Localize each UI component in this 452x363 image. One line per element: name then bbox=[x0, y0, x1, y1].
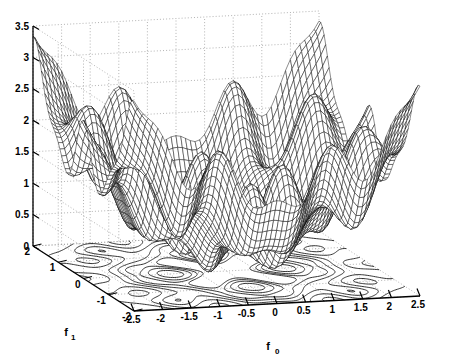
z-tick-label: 3.5 bbox=[15, 21, 29, 32]
svg-text:1: 1 bbox=[71, 333, 76, 342]
z-tick-label: 1.5 bbox=[15, 146, 29, 157]
y-tick-label: -2 bbox=[122, 311, 131, 322]
z-tick-label: 2.5 bbox=[15, 83, 29, 94]
surface-plot-figure: -2.5-2-1.5-1-0.500.511.522.5 210-1-2 00.… bbox=[0, 0, 452, 363]
x-tick-label: 1.5 bbox=[354, 302, 368, 313]
y-axis-title: f 1 bbox=[64, 326, 76, 342]
x-axis-tick-labels: -2.5-2-1.5-1-0.500.511.522.5 bbox=[123, 299, 425, 325]
svg-text:f: f bbox=[266, 340, 270, 352]
x-tick-label: -1 bbox=[213, 310, 222, 321]
z-tick-label: 2 bbox=[23, 115, 29, 126]
y-axis-tick-labels: 210-1-2 bbox=[24, 246, 131, 322]
x-tick-label: 2 bbox=[387, 301, 393, 312]
x-tick-label: -0.5 bbox=[238, 308, 256, 319]
plot-labels-layer: -2.5-2-1.5-1-0.500.511.522.5 210-1-2 00.… bbox=[0, 0, 452, 363]
svg-text:0: 0 bbox=[275, 347, 280, 356]
y-tick-label: -1 bbox=[97, 295, 106, 306]
x-axis-title: f 0 bbox=[266, 340, 280, 356]
x-tick-label: 1 bbox=[329, 304, 335, 315]
y-tick-label: 1 bbox=[50, 262, 56, 273]
z-tick-label: 1 bbox=[23, 178, 29, 189]
x-tick-label: 2.5 bbox=[411, 299, 425, 310]
z-tick-label: 3 bbox=[23, 52, 29, 63]
z-tick-label: 0.5 bbox=[15, 209, 29, 220]
z-tick-label: 0 bbox=[23, 241, 29, 252]
svg-text:f: f bbox=[64, 326, 68, 338]
x-tick-label: -2 bbox=[156, 313, 165, 324]
x-tick-label: 0.5 bbox=[297, 305, 311, 316]
x-tick-label: -1.5 bbox=[181, 311, 199, 322]
y-tick-label: 0 bbox=[75, 279, 81, 290]
z-axis-tick-labels: 00.511.522.533.5 bbox=[15, 21, 29, 252]
x-tick-label: 0 bbox=[272, 307, 278, 318]
